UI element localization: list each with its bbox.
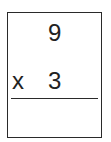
multiplier: 3 bbox=[48, 69, 61, 93]
answer-line bbox=[11, 98, 98, 99]
math-problem-card: 9 x 3 bbox=[7, 12, 102, 138]
multiply-operator: x bbox=[12, 69, 24, 93]
multiplicand: 9 bbox=[48, 21, 61, 45]
